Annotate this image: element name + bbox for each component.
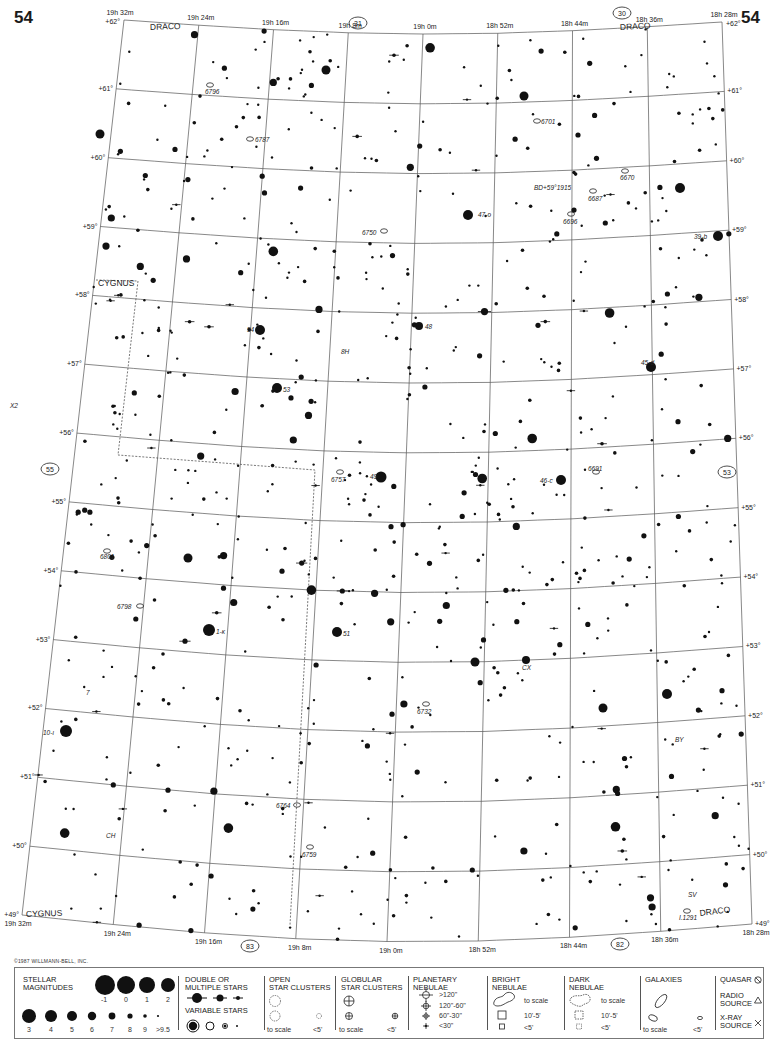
star: [371, 256, 373, 258]
star: [468, 284, 470, 286]
star-label: X2: [9, 402, 18, 409]
star: [313, 723, 315, 725]
star: [672, 743, 674, 745]
star: [176, 357, 178, 359]
magnitude-disc: [161, 978, 175, 992]
star: [299, 39, 301, 41]
star: [119, 413, 121, 415]
star: [457, 299, 459, 301]
star: [267, 243, 269, 245]
star: [430, 916, 432, 918]
star: [480, 646, 482, 648]
ra-label-bottom: 18h 28m: [742, 929, 769, 936]
star: [444, 781, 446, 783]
star: [675, 286, 677, 288]
star: [497, 45, 499, 47]
bright-star: [255, 325, 265, 335]
star: [169, 371, 171, 373]
mag-label: >9.5: [156, 1026, 170, 1033]
star: [611, 822, 621, 832]
bright-star: [332, 627, 342, 637]
star: [197, 453, 204, 460]
star: [83, 440, 87, 444]
star: [214, 458, 216, 460]
star: [404, 743, 406, 745]
star: [324, 826, 326, 828]
star: [316, 330, 320, 334]
star: [559, 741, 561, 743]
star: [173, 895, 177, 899]
star: [529, 39, 531, 41]
star: [633, 585, 635, 587]
star: [526, 286, 530, 290]
star: [497, 513, 501, 517]
star: [557, 369, 561, 373]
star: [163, 809, 167, 813]
star: [726, 231, 731, 236]
star: [262, 190, 267, 195]
star: [625, 920, 627, 922]
dec-label-right: +50°: [753, 851, 768, 858]
star: [558, 123, 562, 127]
star: [289, 77, 293, 81]
star: [682, 680, 684, 682]
star: [635, 486, 637, 488]
star: [415, 552, 419, 556]
star: [725, 862, 729, 866]
star: [367, 377, 369, 379]
star: [129, 772, 131, 774]
star: [238, 709, 242, 713]
star: [237, 465, 239, 467]
star: [578, 607, 580, 609]
star: [535, 923, 537, 925]
star: [584, 260, 586, 262]
star: [315, 306, 322, 313]
galaxy-symbol: [423, 702, 430, 706]
star: [70, 907, 72, 909]
star: [358, 440, 362, 444]
star: [333, 266, 335, 268]
star: [717, 734, 721, 738]
star: [503, 588, 508, 593]
star: [366, 475, 368, 477]
ra-label-top: 18h 52m: [486, 22, 513, 29]
right-ascension-line: [296, 33, 349, 939]
deep-sky-label: I.1291: [679, 914, 697, 921]
star: [580, 431, 582, 433]
star: [453, 349, 455, 351]
star: [529, 204, 533, 208]
star: [600, 487, 602, 489]
star: [545, 853, 547, 855]
star: [495, 96, 499, 100]
legend-divider: [178, 976, 179, 1030]
star: [578, 577, 582, 581]
star: [209, 873, 214, 878]
magnitude-disc: [95, 975, 115, 995]
other-source-symbols: [718, 968, 764, 1038]
star: [419, 190, 421, 192]
star: [138, 551, 140, 553]
star: [60, 720, 62, 722]
star: [571, 726, 573, 728]
star-label: CX: [522, 664, 532, 671]
constellation-name: CYGNUS: [98, 278, 135, 288]
star: [117, 501, 121, 505]
star: [244, 344, 246, 346]
star: [406, 272, 410, 276]
star: [706, 521, 708, 523]
star: [518, 589, 520, 591]
star: [267, 605, 271, 609]
star: [230, 599, 237, 606]
star: [406, 398, 408, 400]
star: [708, 423, 712, 427]
star: [361, 740, 363, 742]
star: [304, 93, 306, 95]
coordinate-grid: [22, 20, 752, 942]
star: [211, 197, 213, 199]
galaxy-symbol: [337, 470, 344, 474]
star: [334, 127, 336, 129]
star: [583, 871, 585, 873]
bright-star: [322, 66, 331, 75]
star: [661, 408, 663, 410]
deep-sky-label: 6701: [541, 118, 556, 125]
